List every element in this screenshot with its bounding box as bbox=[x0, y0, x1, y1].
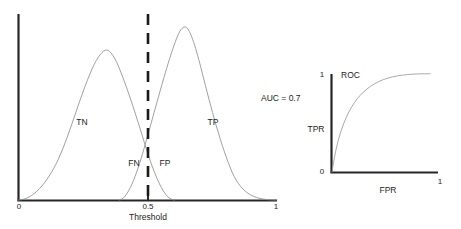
figure-container: TN TP FN FP AUC = 0.7 0 0.5 1 Threshold … bbox=[0, 0, 461, 229]
roc-y-axis-label: TPR bbox=[308, 125, 325, 134]
distribution-x-tick-label-0: 0 bbox=[17, 203, 21, 211]
roc-x-axis-label: FPR bbox=[380, 186, 397, 195]
roc-curve bbox=[332, 74, 430, 172]
distribution-x-axis-label: Threshold bbox=[129, 213, 167, 222]
distribution-x-tick-label-1: 1 bbox=[274, 203, 278, 211]
distribution-x-tick-label-mid: 0.5 bbox=[142, 203, 153, 211]
roc-curve-label: ROC bbox=[341, 71, 360, 80]
roc-y-tick-label-1: 1 bbox=[320, 71, 324, 79]
positive-class-curve bbox=[119, 27, 277, 200]
auc-annotation: AUC = 0.7 bbox=[261, 94, 300, 103]
negative-class-curve bbox=[19, 50, 175, 200]
region-label-true-negative: TN bbox=[76, 118, 87, 127]
region-label-true-positive: TP bbox=[208, 118, 219, 127]
distribution-panel bbox=[17, 14, 277, 201]
region-label-false-positive: FP bbox=[160, 159, 171, 168]
roc-x-tick-label-1: 1 bbox=[438, 178, 442, 186]
roc-panel bbox=[330, 74, 438, 173]
roc-y-tick-label-0: 0 bbox=[320, 168, 324, 176]
region-label-false-negative: FN bbox=[128, 159, 139, 168]
